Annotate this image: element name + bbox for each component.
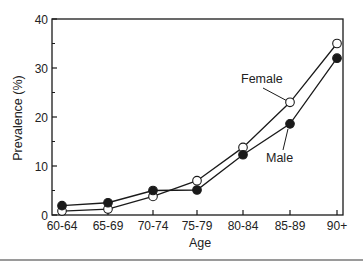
male-data-point: [58, 201, 67, 210]
male-annotation-label: Male: [266, 151, 293, 165]
x-axis: 60-6465-6970-7475-7980-8485-8990+: [47, 210, 348, 233]
x-tick-label: 75-79: [182, 219, 213, 233]
y-tick-label: 30: [35, 62, 49, 76]
male-leader-line: [283, 129, 288, 150]
male-data-point: [239, 150, 248, 159]
bottom-divider: [0, 259, 363, 261]
female-data-point: [286, 98, 295, 107]
y-tick-label: 40: [35, 13, 49, 27]
y-tick-label: 10: [35, 160, 49, 174]
male-data-point: [149, 186, 158, 195]
x-tick-label: 70-74: [138, 219, 169, 233]
series-layer: [58, 39, 342, 215]
female-data-point: [333, 39, 342, 48]
x-tick-label: 65-69: [93, 219, 124, 233]
prevalence-line-chart: 010203040 60-6465-6970-7475-7980-8485-89…: [0, 0, 363, 263]
female-leader-line: [263, 88, 286, 100]
y-axis: 010203040: [35, 13, 57, 223]
y-tick-label: 20: [35, 111, 49, 125]
x-tick-label: 60-64: [47, 219, 78, 233]
female-annotation-label: Female: [241, 72, 283, 86]
x-tick-label: 80-84: [228, 219, 259, 233]
male-data-point: [104, 198, 113, 207]
x-tick-label: 85-89: [275, 219, 306, 233]
female-data-point: [193, 176, 202, 185]
male-data-point: [333, 54, 342, 63]
male-data-point: [286, 120, 295, 129]
x-tick-label: 90+: [327, 219, 347, 233]
x-axis-title: Age: [189, 236, 211, 250]
male-data-point: [193, 186, 202, 195]
y-axis-title: Prevalence (%): [11, 75, 25, 160]
